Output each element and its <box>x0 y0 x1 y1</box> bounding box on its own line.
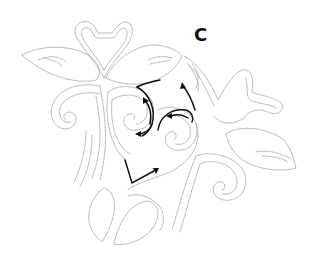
v-arrow-right <box>125 160 159 183</box>
panel-label: C <box>194 26 207 44</box>
spiral-center <box>107 87 154 160</box>
curve-arrow-up <box>180 82 195 110</box>
spiral-center-right <box>128 107 198 190</box>
leaf-bottom-left <box>89 188 115 242</box>
swan-pair-top <box>75 22 132 78</box>
spiral-bottom-right <box>172 154 246 232</box>
leaf-left <box>22 47 99 81</box>
leaf-top-right <box>106 45 182 84</box>
arc-arrow-up <box>137 80 160 136</box>
quilting-diagram <box>0 0 313 253</box>
leaf-bottom-center <box>74 130 163 245</box>
swan-right <box>184 56 282 123</box>
spiral-left <box>51 85 105 180</box>
leaf-right <box>226 128 296 170</box>
